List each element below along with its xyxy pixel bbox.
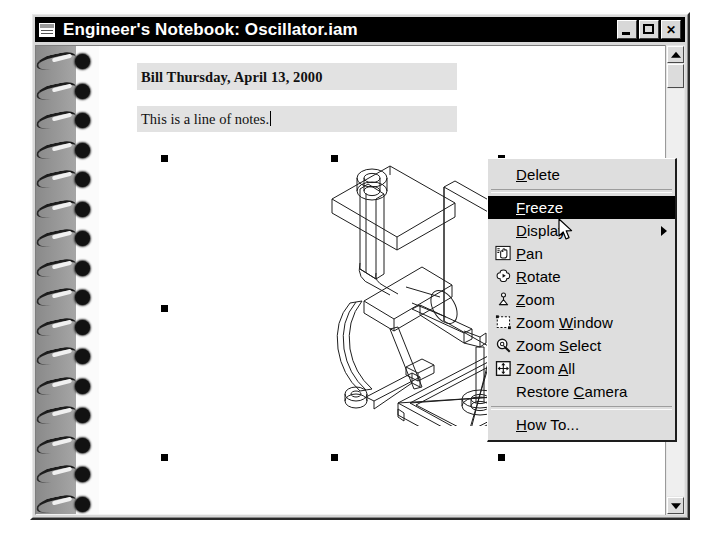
menu-item-freeze[interactable]: Freeze xyxy=(488,196,675,219)
menu-item-label: Zoom Window xyxy=(516,314,613,331)
binding-hole xyxy=(75,349,90,364)
binding-hole xyxy=(75,497,90,512)
zoom-all-icon xyxy=(495,360,512,377)
menu-item-display[interactable]: Display xyxy=(488,219,675,242)
menu-separator xyxy=(491,406,672,410)
menu-item-label: Rotate xyxy=(516,268,561,285)
selection-handle-bottom-center[interactable] xyxy=(331,454,338,461)
text-caret xyxy=(270,111,271,126)
pan-hand-icon xyxy=(492,244,514,264)
window-controls: ✕ xyxy=(617,20,681,39)
maximize-button[interactable] xyxy=(639,20,659,39)
menu-item-rotate[interactable]: Rotate xyxy=(488,265,675,288)
rotate-icon xyxy=(492,267,514,287)
binding-coil xyxy=(36,432,96,462)
binding-hole xyxy=(75,202,90,217)
binding-hole xyxy=(75,379,90,394)
binding-coil xyxy=(36,461,96,491)
selection-handle-middle-left[interactable] xyxy=(161,305,168,312)
scrollbar-thumb[interactable] xyxy=(667,64,684,88)
note-body-text: This is a line of notes. xyxy=(141,111,269,128)
scroll-up-icon xyxy=(671,51,681,57)
menu-item-label: Delete xyxy=(516,166,560,183)
binding-coil xyxy=(36,137,96,167)
menu-item-no-icon xyxy=(492,382,514,402)
menu-item-label: Zoom All xyxy=(516,360,575,377)
binding-hole xyxy=(75,84,90,99)
binding-coil xyxy=(36,166,96,196)
close-button[interactable]: ✕ xyxy=(661,20,681,39)
close-icon: ✕ xyxy=(662,21,680,38)
selection-handle-top-center[interactable] xyxy=(331,155,338,162)
binding-hole xyxy=(75,320,90,335)
binding-hole xyxy=(75,231,90,246)
context-menu[interactable]: DeleteFreezeDisplayPanRotateZoomZoom Win… xyxy=(487,158,677,442)
zoom-select-icon xyxy=(495,337,512,354)
binding-coil xyxy=(36,343,96,373)
binding-hole xyxy=(75,261,90,276)
menu-item-delete[interactable]: Delete xyxy=(488,163,675,186)
binding-hole xyxy=(75,290,90,305)
notebook-window: Engineer's Notebook: Oscillator.iam ✕ xyxy=(30,12,690,520)
selection-handle-top-left[interactable] xyxy=(161,155,168,162)
menu-item-no-icon xyxy=(492,221,514,241)
binding-hole xyxy=(75,54,90,69)
scroll-down-icon xyxy=(671,503,681,509)
binding-coil xyxy=(36,107,96,137)
zoom-select-icon xyxy=(492,336,514,356)
menu-item-pan[interactable]: Pan xyxy=(488,242,675,265)
menu-item-label: Zoom Select xyxy=(516,337,601,354)
binding-hole xyxy=(75,408,90,423)
selection-handle-bottom-left[interactable] xyxy=(161,454,168,461)
menu-item-zoom-select[interactable]: Zoom Select xyxy=(488,334,675,357)
title-bar[interactable]: Engineer's Notebook: Oscillator.iam ✕ xyxy=(35,17,685,42)
notebook-window-icon[interactable] xyxy=(38,22,56,38)
zoom-icon xyxy=(492,290,514,310)
binding-coil xyxy=(36,225,96,255)
menu-item-no-icon xyxy=(492,198,514,218)
menu-item-label: Zoom xyxy=(516,291,555,308)
selection-handle-bottom-right[interactable] xyxy=(498,454,505,461)
menu-item-label: Freeze xyxy=(516,199,563,216)
binding-hole xyxy=(75,172,90,187)
pan-hand-icon xyxy=(495,245,512,262)
screenshot-root: Engineer's Notebook: Oscillator.iam ✕ xyxy=(0,0,716,560)
zoom-window-icon xyxy=(495,314,512,331)
menu-item-zoom-window[interactable]: Zoom Window xyxy=(488,311,675,334)
menu-item-no-icon xyxy=(492,415,514,435)
binding-coil xyxy=(36,48,96,78)
menu-item-label: How To... xyxy=(516,416,579,433)
binding-hole xyxy=(75,143,90,158)
minimize-icon xyxy=(622,32,630,35)
binding-coil xyxy=(36,78,96,108)
minimize-button[interactable] xyxy=(617,20,637,39)
binding-coil xyxy=(36,284,96,314)
binding-hole xyxy=(75,467,90,482)
note-date-field[interactable]: Bill Thursday, April 13, 2000 xyxy=(137,63,457,90)
binding-coil xyxy=(36,314,96,344)
menu-item-zoom[interactable]: Zoom xyxy=(488,288,675,311)
note-date-text: Bill Thursday, April 13, 2000 xyxy=(141,69,453,86)
menu-item-no-icon xyxy=(492,165,514,185)
zoom-icon xyxy=(495,291,512,308)
menu-item-label: Pan xyxy=(516,245,543,262)
menu-item-zoom-all[interactable]: Zoom All xyxy=(488,357,675,380)
submenu-arrow-icon xyxy=(661,226,667,236)
menu-item-how-to[interactable]: How To... xyxy=(488,413,675,436)
binding-coil xyxy=(36,373,96,403)
menu-separator xyxy=(491,189,672,193)
menu-item-restore-camera[interactable]: Restore Camera xyxy=(488,380,675,403)
binding-coil xyxy=(36,255,96,285)
menu-item-label: Display xyxy=(516,222,566,239)
zoom-all-icon xyxy=(492,359,514,379)
binding-coil xyxy=(36,402,96,432)
rotate-icon xyxy=(495,268,512,285)
window-title: Engineer's Notebook: Oscillator.iam xyxy=(63,20,617,40)
scroll-up-button[interactable] xyxy=(667,46,684,63)
binding-hole xyxy=(75,438,90,453)
binding-coil xyxy=(36,491,96,516)
zoom-window-icon xyxy=(492,313,514,333)
note-text-field[interactable]: This is a line of notes. xyxy=(137,106,457,132)
spiral-binding xyxy=(36,46,99,515)
scroll-down-button[interactable] xyxy=(667,497,684,514)
